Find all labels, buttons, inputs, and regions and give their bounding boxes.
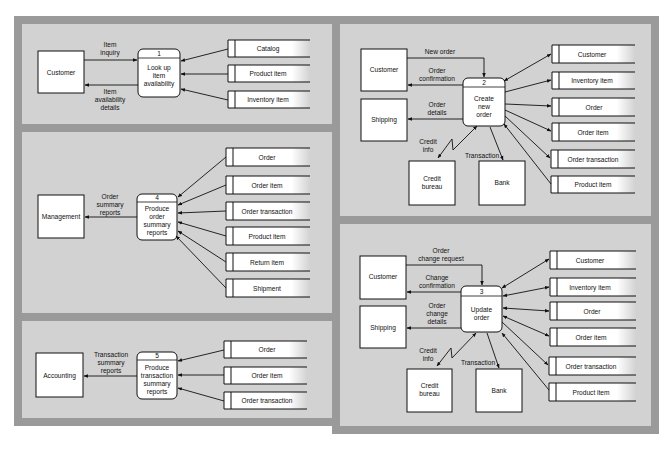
svg-text:Order item: Order item	[575, 334, 607, 341]
svg-text:Shipping: Shipping	[370, 324, 396, 332]
datastore-p3-order: Order	[550, 302, 636, 320]
datastore-p3-customer: Customer	[550, 251, 636, 269]
external-customer-p1: Customer	[38, 51, 84, 93]
svg-text:Inventory item: Inventory item	[571, 77, 613, 85]
label-credit-info-2: info	[423, 146, 434, 153]
label-item-inquiry-1: Item	[104, 41, 117, 48]
label-transaction-summary-1: Transaction	[94, 351, 129, 358]
external-credit-bureau-p2: Credit bureau	[409, 161, 455, 205]
datastore-p2-customer: Customer	[552, 45, 635, 63]
label-availability-3: details	[100, 104, 120, 111]
label-order-summary-3: reports	[100, 209, 121, 217]
label-availability-1: Item	[104, 88, 117, 95]
svg-text:Order transaction: Order transaction	[242, 397, 293, 404]
label-change-details-1: Order	[429, 302, 447, 309]
svg-text:2: 2	[482, 79, 486, 86]
svg-text:Produce: Produce	[145, 364, 170, 371]
datastore-catalog: Catalog	[228, 40, 310, 57]
external-credit-bureau-p3: Credit bureau	[407, 369, 452, 412]
svg-text:new: new	[478, 103, 490, 110]
svg-text:Order transaction: Order transaction	[242, 208, 293, 215]
svg-text:Order item: Order item	[251, 372, 283, 379]
label-details-2: details	[427, 109, 447, 116]
svg-text:Product item: Product item	[574, 181, 612, 188]
svg-text:Bank: Bank	[491, 387, 507, 394]
datastore-product-item: Product item	[228, 65, 310, 82]
svg-text:3: 3	[480, 288, 484, 295]
svg-text:Produce: Produce	[145, 205, 170, 212]
svg-text:Inventory item: Inventory item	[247, 96, 289, 104]
svg-text:Create: Create	[474, 95, 494, 102]
external-management: Management	[38, 195, 84, 238]
svg-text:Customer: Customer	[576, 257, 605, 264]
svg-text:Order: Order	[259, 346, 277, 353]
label-order-summary-1: Order	[102, 193, 120, 200]
external-accounting: Accounting	[36, 353, 83, 397]
dfd-canvas: Customer 1 Look up item availability Ite…	[0, 0, 671, 450]
svg-text:Order: Order	[584, 308, 602, 315]
svg-text:availability: availability	[144, 80, 175, 88]
datastore-p4-order-transaction: Order transaction	[226, 202, 310, 220]
process-4: 4 Produce order summary reports	[137, 194, 177, 240]
datastore-p5-order: Order	[224, 341, 307, 358]
external-shipping-p3: Shipping	[360, 306, 406, 348]
label-change-details-2: change	[426, 310, 448, 318]
datastore-p2-order-transaction: Order transaction	[551, 150, 635, 168]
svg-text:Return item: Return item	[250, 259, 285, 266]
svg-text:1: 1	[157, 50, 161, 57]
datastore-p2-inventory-item: Inventory item	[552, 72, 635, 89]
svg-text:bureau: bureau	[419, 390, 440, 397]
svg-text:Inventory item: Inventory item	[569, 284, 611, 292]
label-change-confirmation-2: confirmation	[419, 282, 455, 289]
svg-text:Catalog: Catalog	[257, 45, 280, 53]
svg-text:5: 5	[155, 352, 159, 359]
datastore-p4-order-item: Order item	[226, 176, 310, 194]
svg-text:Bank: Bank	[494, 179, 510, 186]
svg-text:item: item	[153, 72, 166, 79]
label-new-order: New order	[425, 48, 456, 55]
svg-text:Management: Management	[42, 213, 81, 221]
svg-text:Accounting: Accounting	[43, 372, 76, 380]
svg-text:order: order	[149, 213, 165, 220]
svg-text:Customer: Customer	[47, 69, 76, 76]
external-bank-p2: Bank	[479, 161, 525, 205]
label-details-1: Order	[429, 101, 447, 108]
svg-text:bureau: bureau	[422, 183, 443, 190]
svg-text:Look up: Look up	[147, 64, 171, 72]
svg-text:Update: Update	[471, 306, 493, 314]
svg-text:Product item: Product item	[249, 70, 287, 77]
svg-text:4: 4	[155, 194, 159, 201]
svg-text:Order transaction: Order transaction	[568, 156, 619, 163]
svg-text:Customer: Customer	[369, 273, 398, 280]
svg-text:Shipment: Shipment	[253, 285, 281, 293]
datastore-p4-shipment: Shipment	[226, 279, 310, 297]
external-bank-p3: Bank	[476, 369, 522, 412]
svg-text:reports: reports	[147, 388, 168, 396]
datastore-p4-return-item: Return item	[226, 253, 310, 271]
external-shipping-p2: Shipping	[361, 99, 407, 141]
process-5: 5 Produce transaction summary reports	[137, 352, 177, 399]
datastore-p5-order-item: Order item	[224, 367, 307, 384]
datastore-p3-order-item: Order item	[550, 328, 636, 346]
label-transaction-p3: Transaction	[461, 359, 496, 366]
datastore-p3-order-transaction: Order transaction	[549, 357, 636, 375]
datastore-p4-order: Order	[226, 148, 310, 166]
svg-text:Shipping: Shipping	[371, 116, 397, 124]
label-change-details-3: details	[427, 318, 447, 325]
label-change-request-2: change request	[418, 255, 464, 263]
label-transaction: Transaction	[465, 152, 500, 159]
svg-text:summary: summary	[143, 380, 171, 388]
label-confirmation-1: Order	[429, 67, 447, 74]
svg-text:summary: summary	[143, 221, 171, 229]
label-confirmation-2: confirmation	[419, 75, 455, 82]
label-transaction-summary-2: summary	[97, 359, 125, 367]
svg-text:Product item: Product item	[572, 389, 610, 396]
svg-text:order: order	[474, 314, 490, 321]
datastore-p2-order: Order	[552, 98, 635, 116]
svg-text:Order item: Order item	[251, 182, 283, 189]
svg-text:Order transaction: Order transaction	[566, 363, 617, 370]
svg-text:reports: reports	[147, 229, 168, 237]
svg-text:Product item: Product item	[248, 233, 286, 240]
external-customer-p3: Customer	[360, 256, 406, 299]
label-item-inquiry-2: inquiry	[100, 49, 120, 57]
